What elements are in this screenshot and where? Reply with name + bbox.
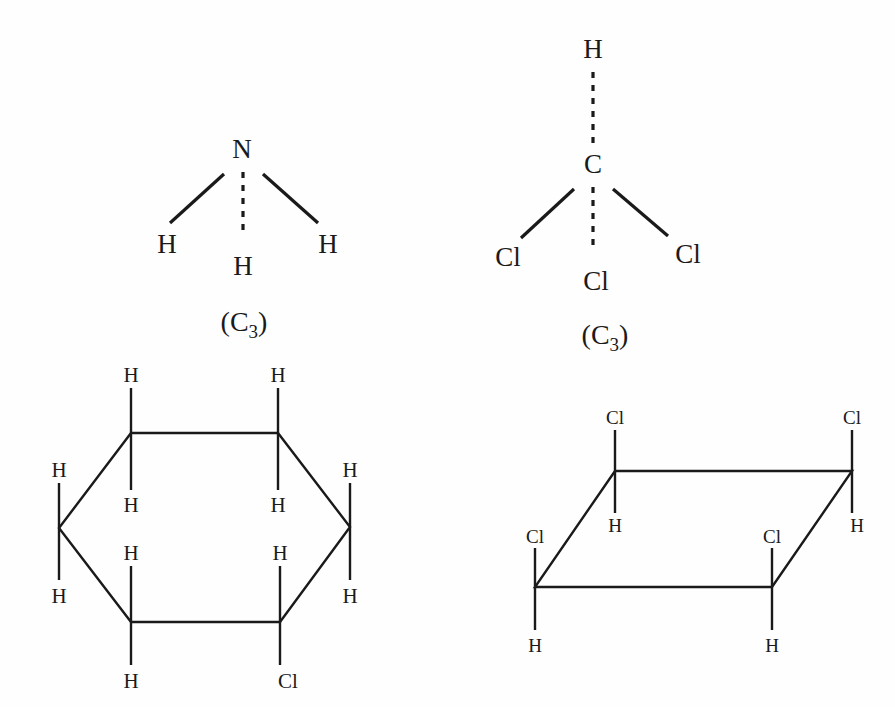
atom-label-carbon-center: C	[584, 149, 602, 179]
bond-c-cl-right	[613, 189, 668, 236]
atom-label-hydrogen-right: H	[318, 229, 338, 259]
bond-n-h-left	[170, 174, 224, 223]
atom-label-chlorine-middle: Cl	[583, 266, 609, 296]
hexagon-label-bottomright-up: H	[272, 541, 287, 565]
bond-n-h-right	[263, 174, 318, 223]
atom-label-hydrogen-left: H	[157, 229, 177, 259]
hexagon-label-topright-up: H	[270, 363, 285, 387]
hexagon-label-right-up: H	[342, 458, 357, 482]
bond-c-cl-left	[521, 189, 574, 238]
parallelogram-label-topleft-down: H	[608, 515, 622, 536]
hexagon-label-bottomleft-down: H	[123, 669, 138, 693]
symmetry-close-paren: )	[619, 319, 628, 350]
hexagon-label-bottomright-down-chlorine: Cl	[278, 669, 298, 693]
atom-label-hydrogen-top: H	[583, 34, 603, 64]
hexagon-label-topleft-up: H	[123, 363, 138, 387]
symmetry-close-paren: )	[258, 306, 267, 337]
atom-label-hydrogen-middle: H	[233, 251, 253, 281]
parallelogram-label-bottomleft-down: H	[528, 635, 542, 656]
atom-label-chlorine-right: Cl	[675, 239, 701, 269]
figure-tetrachloro-parallelogram: Cl H Cl H Cl H Cl H	[526, 407, 864, 656]
hexagon-label-left-up: H	[51, 458, 66, 482]
figure-chlorocyclohexane: H H H H H H H H H H H Cl	[51, 363, 357, 693]
hexagon-label-left-down: H	[51, 584, 66, 608]
parallelogram-label-topright-down: H	[850, 515, 864, 536]
symmetry-label-chloroform: (C3)	[582, 319, 629, 355]
atom-label-nitrogen-center: N	[232, 134, 252, 164]
symmetry-open-paren-c: (C	[221, 306, 249, 337]
parallelogram-label-topright-up: Cl	[843, 407, 861, 428]
hexagon-label-topleft-down: H	[123, 493, 138, 517]
hexagon-label-bottomleft-up: H	[123, 541, 138, 565]
symmetry-label-ammonia: (C3)	[221, 306, 268, 342]
figure-ammonia: N H H H (C3)	[157, 134, 338, 342]
symmetry-open-paren-c: (C	[582, 319, 610, 350]
parallelogram-label-bottomright-up: Cl	[763, 526, 781, 547]
hexagon-label-right-down: H	[342, 584, 357, 608]
symmetry-subscript: 3	[249, 321, 259, 342]
parallelogram-label-bottomleft-up: Cl	[526, 526, 544, 547]
hexagon-label-topright-down: H	[270, 493, 285, 517]
hexagon-ring-outline	[59, 433, 350, 622]
parallelogram-label-topleft-up: Cl	[606, 407, 624, 428]
figure-sheet: N H H H (C3) H C Cl Cl Cl (C3)	[0, 0, 895, 707]
parallelogram-label-bottomright-down: H	[765, 635, 779, 656]
figure-chloroform: H C Cl Cl Cl (C3)	[495, 34, 701, 355]
parallelogram-ring-outline	[535, 471, 852, 587]
atom-label-chlorine-left: Cl	[495, 242, 521, 272]
molecular-diagram-canvas: N H H H (C3) H C Cl Cl Cl (C3)	[0, 0, 895, 707]
symmetry-subscript: 3	[610, 334, 620, 355]
